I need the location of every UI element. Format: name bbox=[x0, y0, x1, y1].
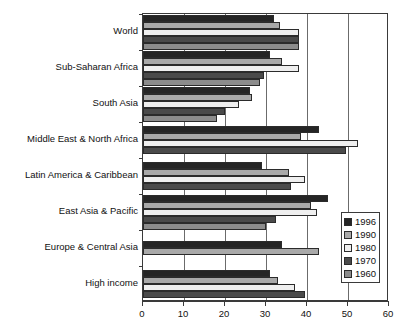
legend-swatch-icon bbox=[344, 231, 352, 239]
bar-row bbox=[143, 22, 387, 29]
category-label: Middle East & North Africa bbox=[27, 133, 138, 144]
bar-1970 bbox=[143, 183, 291, 190]
bar-row bbox=[143, 79, 387, 86]
legend-item: 1980 bbox=[344, 241, 376, 254]
bar-row bbox=[143, 140, 387, 147]
legend-label: 1970 bbox=[355, 255, 376, 266]
bar-row bbox=[143, 162, 387, 169]
category-label: Europe & Central Asia bbox=[45, 241, 138, 252]
bar-row bbox=[143, 101, 387, 108]
bar-1970 bbox=[143, 216, 276, 223]
x-tick-10 bbox=[183, 301, 184, 306]
bar-row bbox=[143, 58, 387, 65]
bar-1996 bbox=[143, 241, 282, 248]
bar-1990 bbox=[143, 22, 280, 29]
bar-1990 bbox=[143, 277, 278, 284]
legend-swatch-icon bbox=[344, 218, 352, 226]
category-axis-labels: WorldSub-Saharan AfricaSouth AsiaMiddle … bbox=[0, 13, 138, 301]
bar-row bbox=[143, 291, 387, 298]
x-tick-label: 40 bbox=[301, 308, 312, 319]
bar-row bbox=[143, 202, 387, 209]
bar-1970 bbox=[143, 108, 225, 115]
bar-1960 bbox=[143, 43, 299, 50]
x-tick-50 bbox=[347, 301, 348, 306]
bar-1996 bbox=[143, 270, 270, 277]
legend-label: 1960 bbox=[355, 268, 376, 279]
legend-item: 1970 bbox=[344, 254, 376, 267]
bar-1980 bbox=[143, 29, 299, 36]
category-label: High income bbox=[85, 277, 138, 288]
bar-1970 bbox=[143, 36, 299, 43]
chart-legend: 19961990198019701960 bbox=[341, 212, 380, 283]
bar-row bbox=[143, 133, 387, 140]
bar-1990 bbox=[143, 202, 311, 209]
x-tick-label: 0 bbox=[139, 308, 144, 319]
bar-row bbox=[143, 115, 387, 122]
bar-row bbox=[143, 195, 387, 202]
x-tick-label: 50 bbox=[342, 308, 353, 319]
category-label: World bbox=[113, 25, 138, 36]
category-label: South Asia bbox=[93, 97, 138, 108]
bar-row bbox=[143, 147, 387, 154]
bar-group bbox=[143, 122, 387, 158]
legend-swatch-icon bbox=[344, 270, 352, 278]
legend-swatch-icon bbox=[344, 244, 352, 252]
legend-label: 1996 bbox=[355, 216, 376, 227]
bar-row bbox=[143, 72, 387, 79]
bar-1980 bbox=[143, 284, 295, 291]
bar-1990 bbox=[143, 94, 252, 101]
bar-1990 bbox=[143, 248, 319, 255]
x-tick-label: 60 bbox=[383, 308, 394, 319]
legend-item: 1996 bbox=[344, 215, 376, 228]
bar-1996 bbox=[143, 195, 328, 202]
bar-row bbox=[143, 65, 387, 72]
bar-1980 bbox=[143, 101, 239, 108]
bar-chart: WorldSub-Saharan AfricaSouth AsiaMiddle … bbox=[0, 0, 394, 329]
bar-group bbox=[143, 14, 387, 50]
x-tick-0 bbox=[142, 301, 143, 306]
bar-1970 bbox=[143, 147, 346, 154]
bar-row bbox=[143, 108, 387, 115]
bar-1980 bbox=[143, 65, 299, 72]
x-tick-30 bbox=[265, 301, 266, 306]
bar-row bbox=[143, 126, 387, 133]
bar-row bbox=[143, 36, 387, 43]
bar-1980 bbox=[143, 176, 305, 183]
bar-group bbox=[143, 50, 387, 86]
legend-item: 1990 bbox=[344, 228, 376, 241]
bar-1960 bbox=[143, 223, 266, 230]
x-tick-60 bbox=[388, 301, 389, 306]
legend-swatch-icon bbox=[344, 257, 352, 265]
bar-row bbox=[143, 43, 387, 50]
x-tick-label: 10 bbox=[178, 308, 189, 319]
bar-1996 bbox=[143, 126, 319, 133]
legend-item: 1960 bbox=[344, 267, 376, 280]
bar-1996 bbox=[143, 51, 270, 58]
bar-1960 bbox=[143, 115, 217, 122]
category-label: Latin America & Caribbean bbox=[25, 169, 138, 180]
bar-1980 bbox=[143, 209, 317, 216]
bar-row bbox=[143, 15, 387, 22]
legend-label: 1990 bbox=[355, 229, 376, 240]
bar-group bbox=[143, 86, 387, 122]
x-tick-label: 20 bbox=[219, 308, 230, 319]
bar-row bbox=[143, 87, 387, 94]
bar-1990 bbox=[143, 169, 289, 176]
category-label: Sub-Saharan Africa bbox=[56, 61, 138, 72]
bar-1990 bbox=[143, 58, 282, 65]
bar-row bbox=[143, 169, 387, 176]
bar-row bbox=[143, 94, 387, 101]
category-label: East Asia & Pacific bbox=[59, 205, 138, 216]
bar-group bbox=[143, 158, 387, 194]
bar-1970 bbox=[143, 291, 305, 298]
bar-row bbox=[143, 284, 387, 291]
bar-row bbox=[143, 51, 387, 58]
bar-1980 bbox=[143, 140, 358, 147]
bar-1960 bbox=[143, 79, 260, 86]
bar-row bbox=[143, 183, 387, 190]
bar-1996 bbox=[143, 162, 262, 169]
bar-1970 bbox=[143, 72, 264, 79]
x-tick-label: 30 bbox=[260, 308, 271, 319]
bar-row bbox=[143, 176, 387, 183]
bar-1996 bbox=[143, 87, 250, 94]
